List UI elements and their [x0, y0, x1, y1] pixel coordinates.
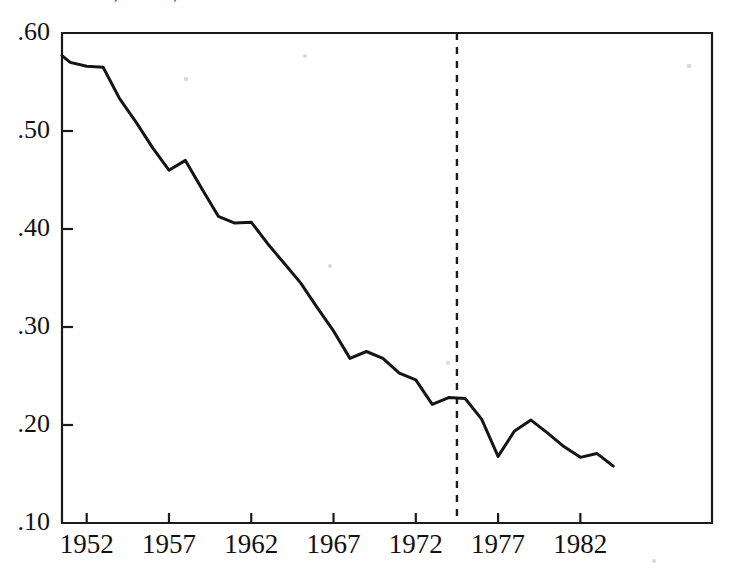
- y-tick-label: .20: [18, 409, 51, 438]
- chart-svg: .60.50.40.30.20.10 195219571962196719721…: [0, 0, 731, 578]
- axis-frame: [62, 33, 712, 523]
- line-chart: .60.50.40.30.20.10 195219571962196719721…: [0, 0, 731, 578]
- scan-artifacts: [184, 54, 691, 563]
- y-tick-label: .40: [18, 213, 51, 242]
- y-tick-label: .30: [18, 311, 51, 340]
- y-tick-label: .50: [18, 115, 51, 144]
- x-axis-labels: 1952195719621967197219771982: [60, 529, 608, 559]
- data-series-group: [62, 56, 613, 467]
- y-axis-labels: .60.50.40.30.20.10: [18, 17, 51, 536]
- y-tick-label: .10: [18, 507, 51, 536]
- y-axis-ticks: [62, 131, 73, 425]
- chart-page: — —— ——— ,— —— , ———————— —— .60.50.40.3…: [0, 0, 731, 578]
- x-tick-label: 1977: [471, 529, 525, 559]
- x-axis-ticks: [87, 513, 581, 523]
- x-tick-label: 1972: [389, 529, 443, 559]
- x-tick-label: 1957: [142, 529, 196, 559]
- data-series-line: [62, 56, 613, 467]
- x-tick-label: 1967: [307, 529, 361, 559]
- y-tick-label: .60: [18, 17, 51, 46]
- x-tick-label: 1982: [553, 529, 607, 559]
- x-tick-label: 1952: [60, 529, 114, 559]
- x-tick-label: 1962: [224, 529, 278, 559]
